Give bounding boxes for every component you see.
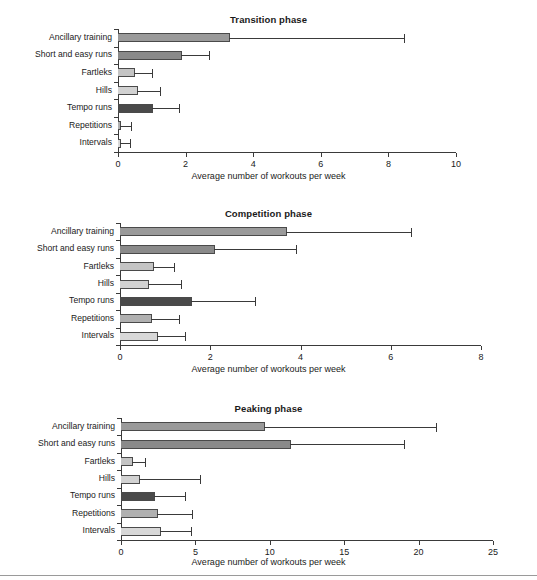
- x-axis-tick: [344, 541, 345, 545]
- bar: [121, 492, 155, 501]
- bar: [120, 227, 287, 236]
- error-bar-cap: [131, 122, 132, 131]
- y-axis-tick: [117, 470, 121, 471]
- y-axis-label: Repetitions: [69, 121, 112, 130]
- y-axis-label: Intervals: [83, 526, 115, 535]
- error-bar-cap: [181, 280, 182, 289]
- y-axis-label: Tempo runs: [70, 491, 115, 500]
- error-bar-line: [191, 301, 255, 302]
- bar: [120, 297, 192, 306]
- chart-title: Competition phase: [0, 208, 537, 219]
- x-axis-caption: Average number of workouts per week: [0, 364, 537, 374]
- y-axis-tick: [116, 258, 120, 259]
- bar: [118, 104, 153, 113]
- error-bar-line: [181, 55, 209, 56]
- error-bar-line: [157, 336, 185, 337]
- x-axis-tick: [493, 541, 494, 545]
- error-bar-cap: [145, 458, 146, 467]
- error-bar-cap: [404, 440, 405, 449]
- error-bar-line: [157, 514, 192, 515]
- y-axis-label: Intervals: [82, 331, 114, 340]
- x-axis-tick: [321, 153, 322, 157]
- x-axis-tick-label: 15: [339, 547, 349, 557]
- y-axis-label: Short and easy runs: [37, 244, 114, 253]
- x-axis-tick-label: 2: [208, 352, 213, 362]
- y-axis-label: Hills: [99, 474, 115, 483]
- error-bar-line: [154, 496, 185, 497]
- y-axis-tick: [117, 505, 121, 506]
- error-bar-cap: [296, 245, 297, 254]
- y-axis-tick: [116, 328, 120, 329]
- error-bar-line: [286, 232, 411, 233]
- plot-area: Ancillary trainingShort and easy runsFar…: [118, 29, 456, 152]
- y-axis-label: Tempo runs: [69, 296, 114, 305]
- bar: [120, 245, 215, 254]
- y-axis-tick: [114, 82, 118, 83]
- y-axis-tick: [114, 64, 118, 65]
- y-axis-tick: [116, 310, 120, 311]
- bar: [120, 332, 158, 341]
- error-bar-line: [134, 73, 152, 74]
- error-bar-line: [290, 444, 404, 445]
- error-bar-line: [139, 479, 200, 480]
- y-axis-tick: [116, 240, 120, 241]
- x-axis-tick: [210, 346, 211, 350]
- x-axis-tick: [391, 346, 392, 350]
- y-axis-label: Fartleks: [84, 457, 115, 466]
- bar: [118, 33, 230, 42]
- x-axis-tick-label: 10: [451, 159, 461, 169]
- chart-panel-competition-phase: Competition phase Ancillary trainingShor…: [0, 195, 537, 390]
- error-bar-cap: [255, 297, 256, 306]
- x-axis-tick-label: 6: [318, 159, 323, 169]
- error-bar-cap: [191, 527, 192, 536]
- figure-page: Transition phase Ancillary trainingShort…: [0, 0, 537, 580]
- y-axis-tick: [114, 134, 118, 135]
- x-axis-tick: [419, 541, 420, 545]
- error-bar-line: [151, 319, 178, 320]
- y-axis-label: Intervals: [80, 138, 112, 147]
- y-axis-label: Hills: [96, 86, 112, 95]
- x-axis-tick: [253, 153, 254, 157]
- y-axis-label: Ancillary training: [49, 33, 112, 42]
- x-axis-tick: [301, 346, 302, 350]
- error-bar-cap: [209, 51, 210, 60]
- y-axis-label: Repetitions: [71, 314, 114, 323]
- x-axis-tick-label: 4: [251, 159, 256, 169]
- x-axis-line: [121, 540, 493, 541]
- x-axis-tick-label: 8: [386, 159, 391, 169]
- error-bar-cap: [185, 492, 186, 501]
- y-axis-label: Repetitions: [72, 509, 115, 518]
- y-axis-tick: [114, 47, 118, 48]
- error-bar-cap: [160, 87, 161, 96]
- chart-title: Transition phase: [0, 14, 537, 25]
- error-bar-cap: [192, 510, 193, 519]
- error-bar-cap: [152, 69, 153, 78]
- chart-panel-peaking-phase: Peaking phase Ancillary trainingShort an…: [0, 390, 537, 580]
- y-axis-label: Short and easy runs: [35, 50, 112, 59]
- error-bar-cap: [200, 475, 201, 484]
- y-axis-label: Hills: [98, 279, 114, 288]
- bar: [121, 440, 291, 449]
- y-axis-tick: [116, 293, 120, 294]
- x-axis-tick-label: 25: [488, 547, 498, 557]
- y-axis-tick: [117, 488, 121, 489]
- x-axis-tick: [121, 541, 122, 545]
- error-bar-line: [160, 531, 191, 532]
- error-bar-cap: [179, 315, 180, 324]
- x-axis-tick-label: 0: [118, 547, 123, 557]
- error-bar-cap: [185, 332, 186, 341]
- y-axis-label: Fartleks: [83, 262, 114, 271]
- x-axis-tick: [120, 346, 121, 350]
- bar: [120, 314, 152, 323]
- y-axis-tick: [116, 223, 120, 224]
- error-bar-cap: [436, 423, 437, 432]
- y-axis-tick: [117, 453, 121, 454]
- error-bar-line: [148, 284, 181, 285]
- x-axis-caption: Average number of workouts per week: [0, 557, 537, 567]
- y-axis-tick: [117, 523, 121, 524]
- bar: [118, 86, 138, 95]
- y-axis-label: Ancillary training: [52, 422, 115, 431]
- y-axis-tick: [114, 99, 118, 100]
- y-axis-label: Fartleks: [81, 68, 112, 77]
- error-bar-cap: [411, 228, 412, 237]
